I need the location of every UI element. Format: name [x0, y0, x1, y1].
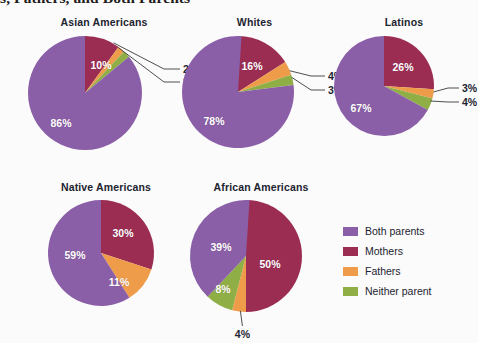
- pie-value-label-both-parents: 59%: [64, 249, 85, 261]
- pie-value-label-both-parents: 39%: [210, 241, 231, 253]
- legend-label: Both parents: [365, 225, 425, 237]
- legend-swatch-icon: [343, 287, 358, 296]
- legend-swatch-icon: [343, 247, 358, 256]
- legend-swatch-icon: [343, 227, 358, 236]
- pie-callout-label-fathers: 3%: [462, 82, 477, 94]
- pie-african-americans: 39%50%8%4%: [190, 200, 302, 312]
- pie-chart-figure: s, Fathers, and Both Parents Asian Ameri…: [0, 0, 478, 343]
- pie-callout-label-fathers: 4%: [235, 328, 250, 340]
- pie-latinos: 67%26%3%4%: [334, 36, 434, 136]
- pie-value-label-both-parents: 67%: [350, 102, 371, 114]
- pie-value-label-mothers: 26%: [392, 61, 413, 73]
- legend-label: Fathers: [365, 265, 401, 277]
- legend-item-neither-parent[interactable]: Neither parent: [343, 281, 432, 301]
- legend-item-both-parents[interactable]: Both parents: [343, 221, 432, 241]
- pie-value-label-both-parents: 78%: [203, 115, 224, 127]
- callout-leader-line: [240, 311, 242, 326]
- legend-label: Neither parent: [365, 285, 432, 297]
- legend-swatch-icon: [343, 267, 358, 276]
- pie-callout-label-neither-parent: 4%: [462, 96, 477, 108]
- pie-slice-mothers[interactable]: [246, 200, 302, 312]
- pie-value-label-mothers: 16%: [241, 60, 262, 72]
- pie-value-label-fathers: 11%: [109, 276, 129, 288]
- pie-value-label-mothers: 10%: [90, 59, 111, 71]
- pie-value-label-neither-parent: 8%: [215, 283, 230, 295]
- legend-item-mothers[interactable]: Mothers: [343, 241, 432, 261]
- pie-panel-african-americans: African Americans 39%50%8%4%: [176, 181, 346, 339]
- pie-value-label-both-parents: 86%: [50, 117, 71, 129]
- callout-leader-line: [434, 88, 460, 92]
- pie-value-label-mothers: 50%: [259, 258, 280, 270]
- legend-label: Mothers: [365, 245, 403, 257]
- chart-legend: Both parentsMothersFathersNeither parent: [343, 221, 432, 301]
- legend-item-fathers[interactable]: Fathers: [343, 261, 432, 281]
- callout-leader-line: [431, 101, 460, 102]
- pie-graphic: [130, 140, 362, 343]
